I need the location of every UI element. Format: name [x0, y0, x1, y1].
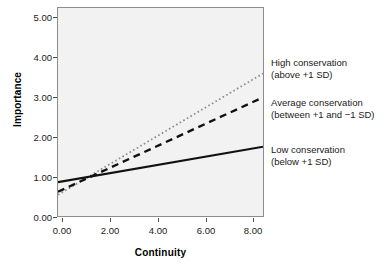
- plot-lines-svg: [58, 8, 263, 216]
- legend-low-title: Low conservation: [271, 144, 345, 156]
- x-tick-label-0: 0.00: [42, 225, 82, 236]
- y-tick-mark-0: [53, 217, 57, 218]
- y-tick-label-5: 5.00: [18, 12, 52, 23]
- x-tick-mark-2: [110, 218, 111, 222]
- legend-entry-low-conservation: Low conservation (below +1 SD): [271, 144, 345, 167]
- legend-entry-high-conservation: High conservation (above +1 SD): [271, 57, 347, 80]
- y-tick-label-2: 2.00: [18, 132, 52, 143]
- legend-high-subtitle: (above +1 SD): [271, 69, 347, 81]
- legend-low-subtitle: (below +1 SD): [271, 156, 345, 168]
- y-axis-title: Importance: [12, 55, 23, 145]
- x-axis-title: Continuity: [57, 247, 264, 258]
- x-tick-mark-4: [158, 218, 159, 222]
- chart-figure: 5.00 4.00 3.00 2.00 1.00 0.00 Importance…: [0, 0, 389, 270]
- legend-average-title: Average conservation: [271, 97, 375, 109]
- y-tick-label-3: 3.00: [18, 92, 52, 103]
- x-tick-mark-6: [206, 218, 207, 222]
- series-line-low-conservation: [58, 147, 263, 182]
- x-tick-mark-8: [253, 218, 254, 222]
- plot-area: [57, 7, 264, 217]
- y-tick-label-4: 4.00: [18, 52, 52, 63]
- y-tick-label-1: 1.00: [18, 172, 52, 183]
- y-tick-label-0: 0.00: [18, 212, 52, 223]
- legend-average-subtitle: (between +1 and −1 SD): [271, 109, 375, 121]
- x-tick-label-8: 8.00: [233, 225, 273, 236]
- legend-entry-average-conservation: Average conservation (between +1 and −1 …: [271, 97, 375, 120]
- x-tick-mark-0: [62, 218, 63, 222]
- x-tick-label-6: 6.00: [186, 225, 226, 236]
- x-tick-label-4: 4.00: [138, 225, 178, 236]
- legend-high-title: High conservation: [271, 57, 347, 69]
- x-tick-label-2: 2.00: [90, 225, 130, 236]
